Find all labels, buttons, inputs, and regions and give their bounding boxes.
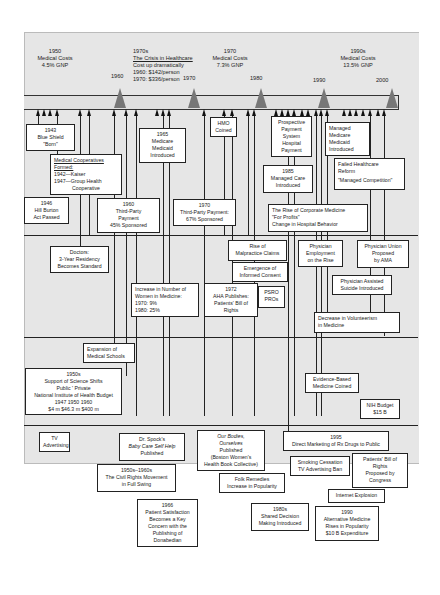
divider	[24, 337, 418, 338]
event-hmo-coined: HMOCoined	[210, 117, 237, 137]
note-1950: 1950Medical Costs4.5% GNP	[30, 48, 80, 69]
event-1965-medicare-medicaid: 1965MedicareMedicaidIntroduced	[139, 128, 186, 163]
decade-2000: 2000	[376, 77, 388, 83]
event-folk-remedies: Folk RemediesIncrease in Popularity	[219, 473, 285, 493]
decade-marker-1990	[318, 88, 330, 108]
event-1972-aha-patients-bill-of-rights: 1972AHA Publishes:Patients' Bill ofRight…	[204, 283, 258, 317]
event-medical-cooperatives: Medical CooperativesFormed:1942—Kaiser19…	[50, 154, 122, 195]
divider	[24, 425, 418, 426]
decade-1980: 1980	[250, 75, 262, 81]
decade-marker-1960	[114, 88, 126, 108]
timeline-band	[24, 95, 399, 110]
event-1970-third-party-payment: 1970Third-Party Payment:67% Sponsored	[173, 199, 236, 226]
event-1995-direct-marketing-rx: 1995Direct Marketing of Rx Drugs to Publ…	[283, 431, 389, 451]
event-physician-employment: PhysicianEmploymenton the Rise	[298, 240, 343, 267]
event-1980s-shared-decision-making: 1980sShared DecisionMaking Introduced	[251, 503, 309, 531]
decade-1990: 1990	[313, 77, 325, 83]
event-psro-pros: PSROPROs	[258, 286, 285, 308]
event-patients-bill-of-rights-congress: Patients' Bill ofRightsProposed byCongre…	[352, 453, 408, 488]
event-1985-managed-care: 1985Managed CareIntroduced	[263, 165, 313, 193]
event-1960-third-party-payment: 1960Third-PartyPayment45% Sponsored	[97, 198, 160, 233]
event-physician-assisted-suicide: Physician AssistedSuicide Introduced	[332, 275, 392, 295]
event-internet-explosion: Internet Explosion	[328, 489, 385, 503]
event-women-in-medicine: Increase in Number ofWomen in Medicine:1…	[131, 283, 199, 317]
event-smoking-cessation-ad-ban: Smoking CessationTV Advertising Ban	[290, 456, 350, 476]
event-1966-patient-satisfaction: 1966Patient SatisfactionBecomes a KeyCon…	[137, 499, 198, 547]
event-1946-hill-burton: 1946Hill BurtonAct Passed	[24, 197, 69, 224]
event-decrease-in-volunteerism: Decrease in Volunteerismin Medicine	[314, 312, 400, 333]
event-expansion-of-medical-schools: Expansion ofMedical Schools	[83, 343, 135, 363]
note-1970: 1970Medical Costs7.3% GNP	[208, 48, 252, 69]
decade-marker-1970	[188, 88, 200, 108]
event-1943-blue-shield: 1943Blue Shield"Born"	[26, 124, 75, 151]
event-prospective-payment-system: ProspectivePaymentSystemHospitalPayment	[271, 116, 312, 157]
event-physician-union: Physician UnionProposedby AMA	[357, 240, 409, 268]
event-malpractice-claims: Rise ofMalpractice Claims	[228, 240, 287, 261]
event-doctors-3-year-residency: Doctors:3-Year ResidencyBecomes Standard	[50, 246, 109, 273]
event-civil-rights-movement: 1950s–1960sThe Civil Rights Movementin F…	[97, 464, 176, 492]
note-1990s: 1990sMedical Costs13.5% GNP	[335, 48, 381, 69]
decade-marker-2000	[386, 88, 398, 108]
event-tv-advertising: TVAdvertising	[39, 432, 70, 452]
decade-marker-1980	[255, 88, 267, 108]
event-evidence-based-medicine: Evidence-BasedMedicine Coined	[305, 373, 359, 393]
decade-1970: 1970	[183, 75, 195, 81]
decade-1960: 1960	[111, 73, 123, 79]
event-informed-consent: Emergence ofInformed Consent	[232, 262, 288, 282]
event-rise-of-corporate-medicine: The Rise of Corporate Medicine"For Profi…	[268, 204, 368, 232]
event-1990-alternative-medicine: 1990Alternative MedicineRises in Popular…	[315, 506, 379, 541]
event-nih-budget: NIH Budget$15 B	[360, 399, 400, 419]
event-1950s-support-of-science: 1950sSupport of Science ShiftsPublic ' P…	[25, 368, 122, 415]
divider	[24, 235, 418, 236]
event-managed-medicare-medicaid: ManagedMedicareMedicaidIntroduced	[325, 122, 370, 156]
event-dr-spock-published: Dr. Spock'sBaby Care Self HelpPublished	[119, 433, 185, 461]
event-our-bodies-ourselves: Our Bodies,OurselvesPublished(Boston Wom…	[197, 430, 265, 471]
event-failed-healthcare-reform: Failed HealthcareReform"Managed Competit…	[334, 158, 405, 190]
